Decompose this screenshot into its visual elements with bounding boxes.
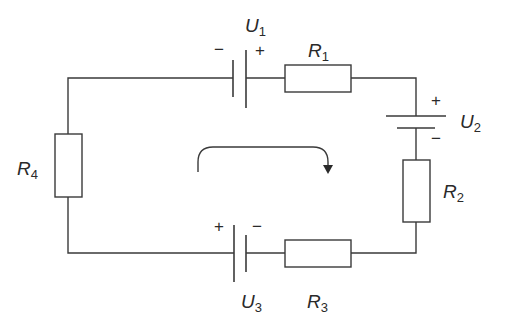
r2-body — [403, 160, 430, 222]
r3-body — [285, 240, 351, 267]
battery-u3: + − U3 — [214, 217, 262, 315]
u2-minus-sign: − — [431, 129, 441, 148]
circuit-diagram: − + U1 R1 + − U2 R2 R3 + − U3 R4 — [0, 0, 508, 333]
r3-label: R3 — [307, 291, 328, 315]
wire-top-left — [68, 78, 233, 134]
resistor-r2: R2 — [403, 160, 464, 222]
resistor-r1: R1 — [285, 40, 351, 92]
u1-plus-sign: + — [255, 41, 265, 60]
u1-minus-sign: − — [214, 40, 224, 59]
r1-label: R1 — [308, 40, 329, 64]
resistor-r4: R4 — [17, 134, 82, 197]
wire-r1-u2 — [351, 78, 416, 116]
u3-label: U3 — [241, 291, 262, 315]
u3-plus-sign: + — [214, 217, 224, 236]
battery-u2: + − U2 — [386, 91, 481, 148]
r4-body — [55, 134, 82, 197]
r1-body — [285, 65, 351, 92]
wires — [68, 78, 416, 253]
battery-u1: − + U1 — [214, 15, 266, 108]
r2-label: R2 — [443, 181, 464, 205]
u2-label: U2 — [460, 111, 481, 135]
resistor-r3: R3 — [285, 240, 351, 315]
u2-plus-sign: + — [431, 91, 441, 110]
u1-label: U1 — [245, 15, 266, 39]
wire-u3-r4 — [68, 197, 234, 253]
r4-label: R4 — [17, 158, 38, 182]
u3-minus-sign: − — [252, 217, 262, 236]
clockwise-loop-arrow-icon — [198, 147, 333, 174]
wire-r2-r3 — [351, 222, 416, 253]
